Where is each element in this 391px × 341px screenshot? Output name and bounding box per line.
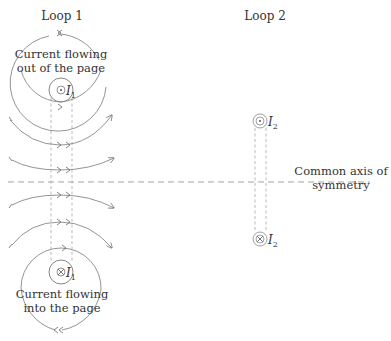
loop1-top-label-line2: out of the page <box>17 61 106 75</box>
loop1-title: Loop 1 <box>41 9 83 23</box>
loop2-bottom-current-label: I2 <box>267 233 278 249</box>
loop2-top-wire <box>253 114 267 128</box>
loop1-top-current-label: I1 <box>65 84 76 100</box>
field-direction-arrows <box>9 117 70 248</box>
loop1-bottom-label-line1: Current flowing <box>16 287 109 301</box>
loop1-top-label-line1: Current flowing <box>15 47 108 61</box>
loop2-title: Loop 2 <box>244 9 286 23</box>
two-loop-magnetic-field-diagram: Loop 1 Loop 2 Common axis of symmetry I1… <box>0 0 391 341</box>
loop2-bottom-wire <box>253 232 267 246</box>
loop1-cross-section <box>51 98 72 262</box>
loop1-bottom-current-label: I1 <box>65 266 76 282</box>
loop1-bottom-label-line2: into the page <box>23 301 100 315</box>
axis-label-line2: symmetry <box>312 178 370 192</box>
loop2-cross-section <box>255 128 266 232</box>
loop1-field-lines <box>10 115 114 248</box>
loop2-top-current-label: I2 <box>267 115 278 131</box>
axis-label-line1: Common axis of <box>294 164 388 178</box>
